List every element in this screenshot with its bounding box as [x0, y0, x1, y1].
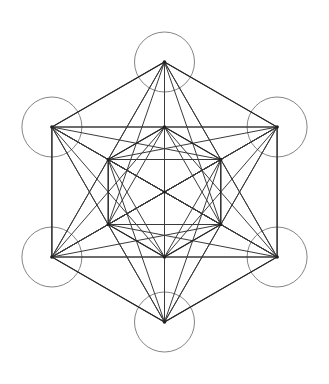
node-vertex-outer-upper-left	[50, 125, 54, 129]
node-vertex-inner-upper-right	[219, 158, 223, 162]
node-vertex-outer-lower-right	[275, 255, 279, 259]
node-vertex-inner-lower-right	[219, 223, 223, 227]
node-vertex-outer-lower-left	[50, 255, 54, 259]
node-vertex-outer-bottom	[163, 320, 167, 324]
node-vertex-inner-lower-left	[106, 223, 110, 227]
node-vertex-inner-bottom	[163, 255, 167, 259]
node-vertex-outer-top	[163, 60, 167, 64]
node-vertex-inner-top	[163, 125, 167, 129]
node-vertex-inner-upper-left	[106, 158, 110, 162]
node-vertex-outer-upper-right	[275, 125, 279, 129]
node-vertex-center	[163, 191, 166, 194]
metatrons-cube-figure: Metatron's Cube Fruit of Life — 13 circl…	[0, 0, 329, 384]
metatrons-cube-canvas	[0, 0, 329, 384]
